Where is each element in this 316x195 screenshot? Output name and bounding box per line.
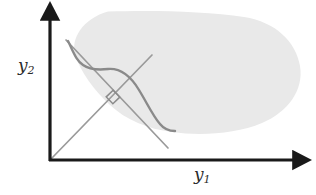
x-axis-label: y1 — [194, 166, 211, 183]
x-axis-label-subscript: 1 — [204, 173, 211, 186]
x-axis-label-base: y — [194, 164, 204, 184]
attainable-set-blob — [74, 11, 300, 134]
figure-root: y2 y1 — [0, 0, 316, 195]
y-axis-label: y2 — [18, 57, 35, 74]
y-axis-label-base: y — [18, 55, 28, 75]
figure-canvas — [0, 0, 316, 195]
y-axis-label-subscript: 2 — [28, 64, 35, 77]
